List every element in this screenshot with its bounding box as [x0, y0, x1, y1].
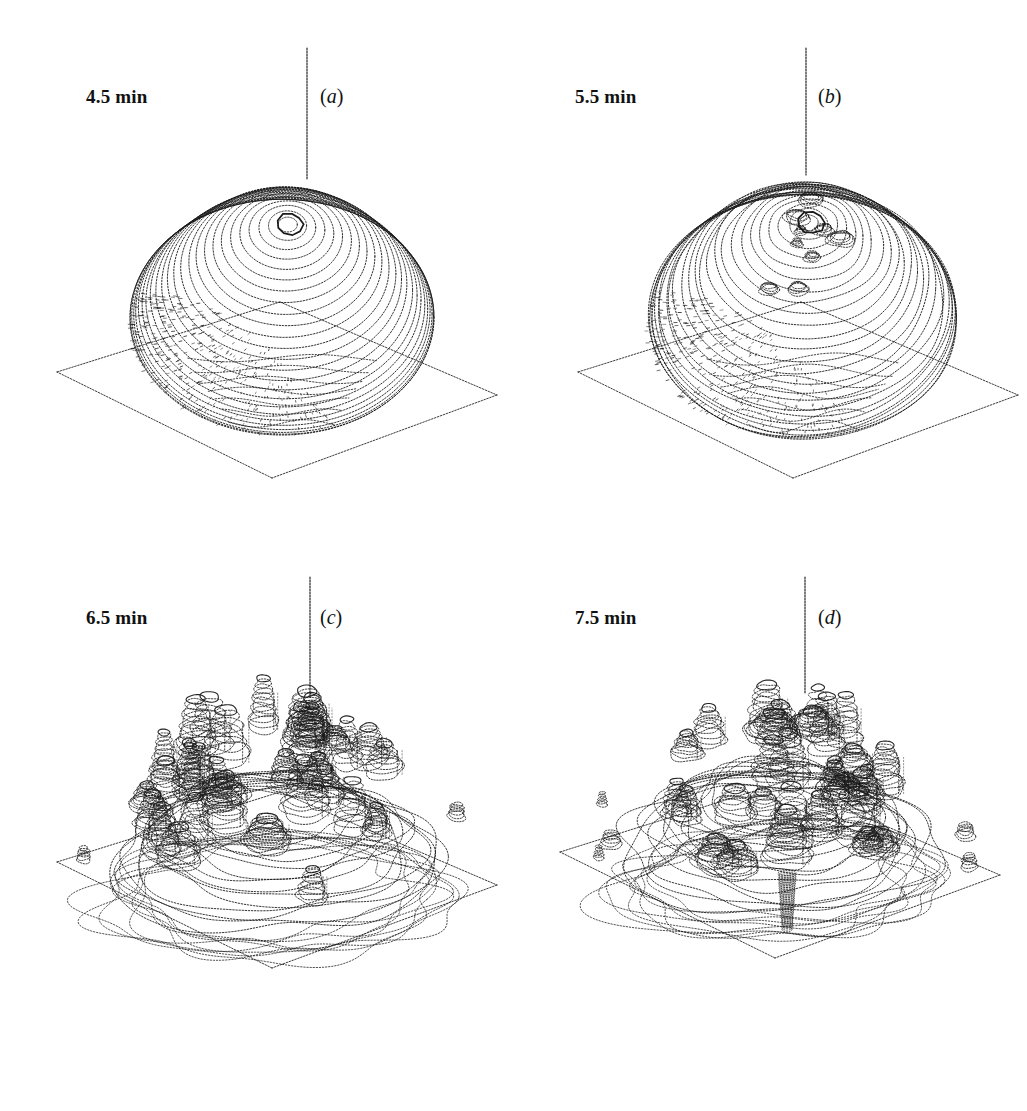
panel-d-letter-char: d [825, 606, 835, 628]
panel-b: 5.5 min (b) [513, 0, 1026, 555]
panel-d-letter-close: ) [835, 606, 842, 628]
panel-c-plot [0, 512, 513, 1067]
figure-root: 4.5 min (a) 5.5 min (b) 6.5 min (c) 7.5 … [0, 0, 1027, 1111]
panel-c-time-label: 6.5 min [86, 607, 148, 629]
panel-c-letter-char: c [327, 606, 336, 628]
panel-a-letter: (a) [320, 85, 343, 108]
panel-b-letter-open: ( [818, 85, 825, 107]
panel-a-letter-char: a [327, 85, 337, 107]
panel-a-letter-open: ( [320, 85, 327, 107]
panel-c: 6.5 min (c) [0, 512, 513, 1067]
panel-a: 4.5 min (a) [0, 0, 513, 555]
panel-d-letter: (d) [818, 606, 841, 629]
panel-b-time-label: 5.5 min [575, 86, 637, 108]
panel-d-letter-open: ( [818, 606, 825, 628]
panel-d: 7.5 min (d) [513, 512, 1026, 1067]
panel-b-letter-char: b [825, 85, 835, 107]
panel-b-plot [513, 0, 1026, 555]
panel-a-plot [0, 0, 513, 555]
panel-a-time-label: 4.5 min [86, 86, 148, 108]
panel-b-base-plane [578, 302, 1018, 478]
panel-d-plot [513, 512, 1026, 1067]
panel-c-letter-open: ( [320, 606, 327, 628]
panel-c-letter: (c) [320, 606, 342, 629]
panel-b-letter: (b) [818, 85, 841, 108]
panel-a-letter-close: ) [337, 85, 344, 107]
panel-c-letter-close: ) [336, 606, 343, 628]
panel-b-letter-close: ) [835, 85, 842, 107]
panel-d-time-label: 7.5 min [575, 607, 637, 629]
